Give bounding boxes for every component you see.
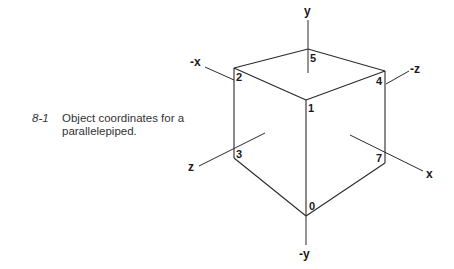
axis-label-neg-z: -z <box>410 62 420 76</box>
axis-label-z: z <box>188 160 194 174</box>
edge-5-2 <box>234 49 308 68</box>
axis-label-neg-x: -x <box>190 55 201 69</box>
axis-label-x: x <box>426 167 433 181</box>
parallelepiped-diagram: 5 2 4 1 3 7 0 y -y -x -z z x <box>0 0 454 269</box>
axis-label-neg-y: -y <box>299 247 310 261</box>
vertex-label-2: 2 <box>236 71 242 83</box>
vertex-label-1: 1 <box>308 102 314 114</box>
axis-x-negative <box>205 67 234 80</box>
vertex-label-4: 4 <box>376 75 383 87</box>
edge-3-0 <box>234 158 306 216</box>
edge-5-4 <box>308 49 385 71</box>
axis-label-y: y <box>304 4 311 18</box>
vertex-label-3: 3 <box>236 148 242 160</box>
edge-2-1 <box>234 68 306 100</box>
axis-z-positive <box>199 133 265 166</box>
vertex-label-7: 7 <box>376 152 382 164</box>
vertex-label-0: 0 <box>309 200 315 212</box>
vertex-label-5: 5 <box>310 52 316 64</box>
edge-4-1 <box>306 71 385 100</box>
axis-x-positive <box>350 135 423 171</box>
edge-7-0 <box>306 163 385 216</box>
axis-z-negative <box>386 71 409 84</box>
